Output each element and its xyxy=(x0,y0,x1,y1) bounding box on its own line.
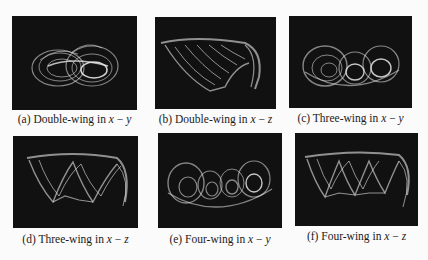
panel-a-double-wing-xy xyxy=(12,16,137,110)
caption-a: (a) Double-wing in x − y xyxy=(12,113,137,125)
panel-d-three-wing-xz xyxy=(13,136,138,228)
caption-e: (e) Four-wing in x − y xyxy=(153,233,287,245)
attractor-plot-d xyxy=(13,136,138,228)
caption-b: (b) Double-wing in x − z xyxy=(150,113,281,125)
attractor-plot-c xyxy=(289,16,412,108)
panel-c-three-wing-xy xyxy=(289,16,412,108)
panel-e-four-wing-xy xyxy=(158,133,282,228)
caption-f: (f) Four-wing in x − z xyxy=(290,230,423,242)
attractor-plot-f xyxy=(295,133,418,226)
caption-c: (c) Three-wing in x − y xyxy=(284,112,417,124)
attractor-plot-a xyxy=(12,16,137,110)
attractor-plot-e xyxy=(158,133,282,228)
panel-f-four-wing-xz xyxy=(295,133,418,226)
panel-b-double-wing-xz xyxy=(155,17,276,109)
attractor-plot-b xyxy=(155,17,276,109)
caption-d: (d) Three-wing in x − z xyxy=(8,233,143,245)
